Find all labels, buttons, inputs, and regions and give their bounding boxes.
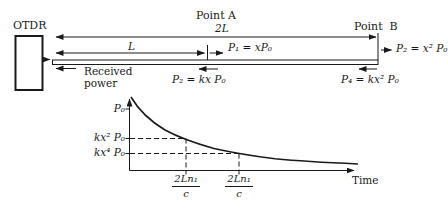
y-tick-label-kx4p0: kx⁴ P₀: [78, 147, 125, 158]
length-l-label: L: [128, 41, 135, 52]
otdr-box: [16, 36, 43, 90]
y-tick-label-p0: P₀: [78, 103, 125, 114]
p2-backscatter-label: P₂ = kx P₀: [172, 74, 226, 85]
x-tick-2-numerator: 2Ln₁: [225, 174, 252, 187]
fiber-link: [53, 60, 379, 65]
dashed-guides: [130, 139, 239, 171]
x-tick-1-denominator: c: [170, 187, 202, 199]
y-tick-label-kx2p0: kx² P₀: [78, 132, 125, 143]
x-axis-title: Time: [352, 175, 379, 186]
otdr-figure: OTDR Point A 2L L Point B P₁ = xP₀ P₂ = …: [0, 0, 448, 211]
x-tick-2-denominator: c: [223, 187, 255, 199]
p4-backscatter-label: P₄ = kx² P₀: [341, 74, 399, 85]
y-axis-title: Received power: [84, 66, 148, 89]
p2-transmitted-label: P₂ = x² P₀: [396, 43, 448, 54]
x-tick-label-1: 2Ln₁ c: [170, 174, 202, 199]
length-2l-label: 2L: [215, 23, 229, 34]
point-a-label: Point A: [196, 10, 236, 21]
x-tick-label-2: 2Ln₁ c: [223, 174, 255, 199]
otdr-label: OTDR: [13, 20, 46, 31]
point-b-label: Point B: [354, 21, 398, 32]
p1-label: P₁ = xP₀: [228, 42, 272, 53]
x-tick-1-numerator: 2Ln₁: [172, 174, 199, 187]
